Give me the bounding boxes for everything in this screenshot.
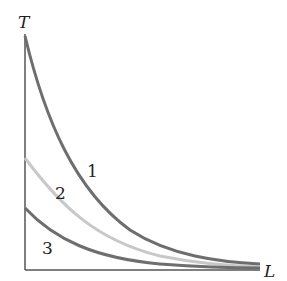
curve-3-label: 3 [42, 238, 53, 258]
curve-1 [25, 36, 260, 264]
y-axis-label: T [18, 12, 31, 32]
x-axis-label: L [263, 261, 275, 281]
curve-1-label: 1 [87, 161, 98, 181]
curve-2 [25, 158, 260, 267]
decay-curves-diagram: T L 1 2 3 [0, 0, 287, 281]
curve-2-label: 2 [55, 183, 66, 203]
